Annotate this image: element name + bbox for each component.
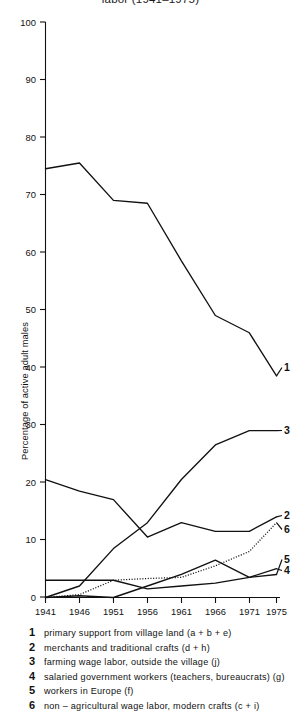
x-tick-1961: 1961 <box>171 606 192 617</box>
y-axis-title: Percentage of active adult males <box>20 296 30 486</box>
legend-text-1: primary support from village land (a + b… <box>44 628 232 638</box>
series-label-6: 6 <box>284 523 290 535</box>
legend-key-1: 1 <box>0 626 44 638</box>
y-tick-0: 0 <box>31 592 36 603</box>
series-label-4: 4 <box>284 564 290 576</box>
y-tick-70: 70 <box>26 189 36 200</box>
legend-text-5: workers in Europe (f) <box>44 686 134 696</box>
x-tick-1966: 1966 <box>205 606 226 617</box>
x-tick-1975: 1975 <box>266 606 287 617</box>
legend-key-3: 3 <box>0 655 44 667</box>
y-tick-10: 10 <box>26 534 36 545</box>
x-tick-1951: 1951 <box>103 606 124 617</box>
x-tick-1971: 1971 <box>239 606 260 617</box>
legend-item-1: 1 primary support from village land (a +… <box>0 626 301 641</box>
x-tick-1941: 1941 <box>35 606 56 617</box>
x-axis-ticks <box>46 598 277 604</box>
legend-item-3: 3 farming wage labor, outside the villag… <box>0 655 301 670</box>
chart-legend: 1 primary support from village land (a +… <box>0 626 301 714</box>
series-leader-1 <box>277 368 283 376</box>
y-tick-90: 90 <box>26 74 36 85</box>
series-line-6 <box>46 523 277 598</box>
chart-page: labor (1941–1975) 100 90 80 70 <box>0 0 301 714</box>
series-label-5: 5 <box>284 553 290 565</box>
chart-plot-area: 100 90 80 70 60 50 40 30 20 10 0 <box>0 0 301 625</box>
x-axis: 1941 1946 1951 1956 1961 1966 1971 1975 <box>35 598 287 618</box>
x-tick-1946: 1946 <box>69 606 90 617</box>
legend-key-4: 4 <box>0 670 44 682</box>
series-end-labels: 1 2 3 4 5 6 <box>284 361 290 576</box>
x-tick-1956: 1956 <box>137 606 158 617</box>
series-leader-4 <box>277 569 283 571</box>
series-line-2 <box>46 480 277 538</box>
y-tick-100: 100 <box>20 17 36 28</box>
x-axis-tick-labels: 1941 1946 1951 1956 1961 1966 1971 1975 <box>35 606 287 617</box>
series-line-3 <box>46 431 277 598</box>
legend-item-6: 6 non – agricultural wage labor, modern … <box>0 699 301 714</box>
legend-key-5: 5 <box>0 684 44 696</box>
series-label-1: 1 <box>284 361 290 373</box>
legend-text-4: salaried government workers (teachers, b… <box>44 672 285 682</box>
legend-item-5: 5 workers in Europe (f) <box>0 684 301 699</box>
legend-key-2: 2 <box>0 641 44 653</box>
series-line-1 <box>46 163 277 376</box>
series-label-3: 3 <box>284 424 290 436</box>
legend-key-6: 6 <box>0 699 44 711</box>
series-leader-5 <box>277 560 283 575</box>
series-lines <box>46 163 277 598</box>
series-leader-2 <box>277 516 283 517</box>
legend-text-3: farming wage labor, outside the village … <box>44 657 220 667</box>
legend-text-6: non – agricultural wage labor, modern cr… <box>44 701 259 711</box>
y-axis-ticks <box>40 22 46 597</box>
series-leader-6 <box>277 523 283 530</box>
y-tick-60: 60 <box>26 247 36 258</box>
legend-item-4: 4 salaried government workers (teachers,… <box>0 670 301 685</box>
legend-item-2: 2 merchants and traditional crafts (d + … <box>0 641 301 656</box>
y-tick-80: 80 <box>26 132 36 143</box>
legend-text-2: merchants and traditional crafts (d + h) <box>44 643 210 653</box>
series-label-2: 2 <box>284 509 290 521</box>
